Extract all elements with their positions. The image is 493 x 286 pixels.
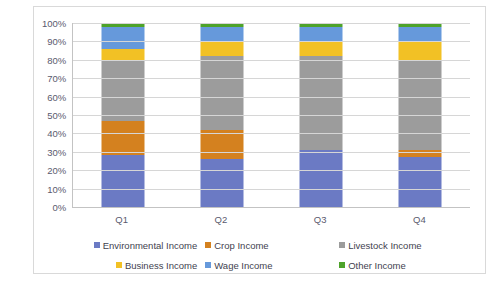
x-axis-tick-label: Q3 — [314, 214, 327, 225]
legend-label: Livestock Income — [348, 240, 421, 251]
gridline — [73, 152, 470, 153]
gridline — [73, 207, 470, 208]
legend-label: Crop Income — [214, 240, 268, 251]
y-axis-tick-label: 50% — [47, 110, 66, 121]
x-axis-label-slot: Q4 — [370, 209, 469, 229]
legend-swatch-icon — [116, 262, 122, 268]
y-axis-tick-label: 40% — [47, 128, 66, 139]
x-axis-tick-label: Q4 — [413, 214, 426, 225]
plot-area — [72, 23, 470, 208]
legend-other-income[interactable]: Other Income — [317, 260, 472, 271]
y-axis-tick-label: 60% — [47, 91, 66, 102]
x-axis-tick-label: Q1 — [115, 214, 128, 225]
bar-segment-wage-income[interactable] — [101, 27, 144, 49]
gridline — [73, 23, 470, 24]
bar-segment-livestock-income[interactable] — [101, 60, 144, 121]
y-axis-tick-label: 80% — [47, 54, 66, 65]
bar-segment-environmental-income[interactable] — [101, 155, 144, 207]
bar-segment-livestock-income[interactable] — [300, 56, 343, 150]
legend-swatch-icon — [205, 242, 211, 248]
legend-swatch-icon — [339, 262, 345, 268]
y-axis-tick-label: 30% — [47, 146, 66, 157]
y-axis-tick-label: 100% — [42, 18, 66, 29]
y-axis-tick-label: 0% — [52, 202, 66, 213]
legend-business-income[interactable]: Business Income — [72, 260, 197, 271]
gridline — [73, 41, 470, 42]
bar-segment-livestock-income[interactable] — [399, 60, 442, 150]
bar-segment-crop-income[interactable] — [101, 121, 144, 156]
y-axis-tick-label: 70% — [47, 73, 66, 84]
x-axis-label-slot: Q3 — [271, 209, 370, 229]
y-axis-tick-label: 20% — [47, 165, 66, 176]
gridline — [73, 78, 470, 79]
legend-crop-income[interactable]: Crop Income — [197, 240, 317, 251]
legend-row: Business IncomeWage IncomeOther Income — [72, 255, 472, 275]
legend-swatch-icon — [339, 242, 345, 248]
legend-swatch-icon — [205, 262, 211, 268]
x-axis: Q1Q2Q3Q4 — [72, 209, 469, 229]
bar-segment-wage-income[interactable] — [399, 27, 442, 42]
bar-segment-environmental-income[interactable] — [300, 150, 343, 207]
gridline — [73, 115, 470, 116]
x-axis-tick-label: Q2 — [215, 214, 228, 225]
bar-segment-business-income[interactable] — [101, 49, 144, 60]
legend-label: Wage Income — [214, 260, 272, 271]
gridline — [73, 170, 470, 171]
bar-segment-business-income[interactable] — [300, 41, 343, 56]
bar-segment-livestock-income[interactable] — [200, 56, 243, 130]
bar-segment-wage-income[interactable] — [200, 27, 243, 42]
legend-label: Other Income — [348, 260, 406, 271]
plot-wrapper: 100%90%80%70%60%50%40%30%20%10%0% Q1Q2Q3… — [34, 7, 487, 215]
legend-row: Environmental IncomeCrop IncomeLivestock… — [72, 235, 472, 255]
y-axis-tick-label: 90% — [47, 36, 66, 47]
legend-wage-income[interactable]: Wage Income — [197, 260, 317, 271]
legend-label: Business Income — [125, 260, 197, 271]
bar-segment-business-income[interactable] — [399, 41, 442, 59]
gridline — [73, 60, 470, 61]
bar-segment-business-income[interactable] — [200, 41, 243, 56]
chart-legend: Environmental IncomeCrop IncomeLivestock… — [72, 235, 472, 275]
y-axis-tick-label: 10% — [47, 183, 66, 194]
legend-environmental-income[interactable]: Environmental Income — [72, 240, 197, 251]
legend-label: Environmental Income — [103, 240, 198, 251]
bar-segment-environmental-income[interactable] — [200, 159, 243, 207]
gridline — [73, 97, 470, 98]
y-axis: 100%90%80%70%60%50%40%30%20%10%0% — [34, 7, 70, 215]
gridline — [73, 189, 470, 190]
x-axis-label-slot: Q1 — [72, 209, 171, 229]
bar-segment-wage-income[interactable] — [300, 27, 343, 42]
legend-swatch-icon — [94, 242, 100, 248]
bar-segment-environmental-income[interactable] — [399, 157, 442, 207]
legend-livestock-income[interactable]: Livestock Income — [317, 240, 472, 251]
gridline — [73, 133, 470, 134]
x-axis-label-slot: Q2 — [171, 209, 270, 229]
chart-frame: 100%90%80%70%60%50%40%30%20%10%0% Q1Q2Q3… — [33, 6, 486, 274]
